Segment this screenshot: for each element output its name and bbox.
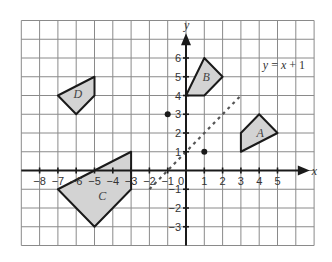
- coordinate-plane: ABCD −8−7−6−5−4−3−2−112345−3−2−1123456 x…: [0, 0, 332, 262]
- line-equation-label: y = x + 1: [262, 58, 305, 72]
- y-tick-label: 2: [175, 127, 181, 139]
- x-axis-arrow-icon: [298, 166, 310, 176]
- y-tick-label: −3: [168, 221, 181, 233]
- x-tick-label: 1: [201, 175, 207, 187]
- y-axis-label: y: [183, 18, 190, 32]
- shape-label-d: D: [72, 87, 82, 101]
- x-tick-label: −7: [52, 175, 65, 187]
- x-tick-label: −5: [88, 175, 101, 187]
- shape-label-c: C: [98, 189, 107, 203]
- point-neg1-3: [165, 111, 171, 117]
- coordinate-grid-diagram: ABCD −8−7−6−5−4−3−2−112345−3−2−1123456 x…: [0, 0, 332, 262]
- x-tick-label: −8: [33, 175, 46, 187]
- y-tick-label: 3: [175, 108, 181, 120]
- x-tick-label: 5: [274, 175, 280, 187]
- x-tick-label: 4: [256, 175, 262, 187]
- y-tick-label: −2: [168, 202, 181, 214]
- point-1-1: [201, 149, 207, 155]
- x-tick-label: −4: [107, 175, 120, 187]
- y-tick-label: 6: [175, 52, 181, 64]
- x-tick-label: 2: [220, 175, 226, 187]
- y-tick-label: 5: [175, 71, 181, 83]
- x-tick-label: −6: [70, 175, 83, 187]
- x-axis-label: x: [311, 164, 318, 178]
- x-tick-label: −2: [143, 175, 156, 187]
- x-tick-label: −3: [125, 175, 138, 187]
- labels: x y 0 y = x + 1: [178, 18, 318, 186]
- eq-equals: =: [268, 58, 281, 72]
- origin-label: 0: [178, 175, 184, 187]
- eq-plus-one: + 1: [286, 58, 305, 72]
- shape-label-b: B: [202, 70, 210, 84]
- x-tick-label: 3: [238, 175, 244, 187]
- y-tick-label: 4: [175, 90, 181, 102]
- shape-label-a: A: [255, 126, 264, 140]
- y-tick-label: 1: [175, 146, 181, 158]
